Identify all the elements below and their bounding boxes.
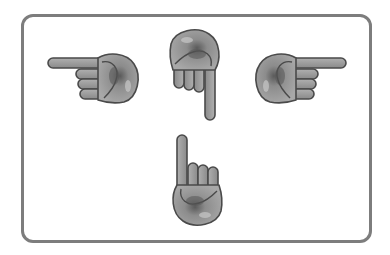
hand-pointing-right-icon: right [252, 46, 348, 108]
hand-pointing-left-icon: left [46, 46, 142, 108]
hand-pointing-up-icon: up [165, 26, 227, 122]
hand-pointing-down-icon: down [165, 133, 227, 229]
